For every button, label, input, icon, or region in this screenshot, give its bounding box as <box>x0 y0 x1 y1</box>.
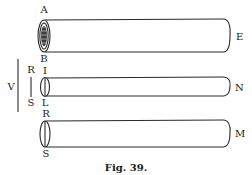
label-e: E <box>236 31 243 42</box>
cylinder-top-right-cap <box>224 19 230 52</box>
cylinder-top-upper-edge <box>45 19 224 20</box>
cylinder-bottom-upper-edge <box>46 120 224 121</box>
label-v: V <box>6 81 15 92</box>
label-l: L <box>42 97 49 108</box>
label-r-bottom: R <box>42 108 50 119</box>
cylinder-middle-right-cap <box>224 77 230 96</box>
scale-bars: V R S <box>6 59 35 112</box>
cylinder-middle: I L N <box>41 65 245 108</box>
cylinder-bottom-left-end-lens <box>40 121 50 147</box>
label-r-scale: R <box>27 64 35 75</box>
cylinder-middle-upper-edge <box>46 77 224 78</box>
label-s-scale: S <box>28 97 35 108</box>
cylinder-top: A B E <box>38 4 243 64</box>
cylinder-bottom: R S M <box>40 108 245 159</box>
figure-caption: Fig. 39. <box>105 162 147 173</box>
diagram-canvas: A B E I L N R S <box>0 0 252 175</box>
label-a: A <box>39 4 48 15</box>
cylinder-bottom-right-cap <box>224 120 230 147</box>
cylinder-middle-left-end-lens <box>41 78 50 97</box>
label-i: I <box>43 65 47 76</box>
label-m: M <box>235 128 245 139</box>
figure-39: A B E I L N R S <box>0 0 252 175</box>
label-s-bottom: S <box>43 148 50 159</box>
cylinder-top-left-end-hatched <box>38 20 50 52</box>
label-n: N <box>235 82 244 93</box>
label-b: B <box>40 53 47 64</box>
